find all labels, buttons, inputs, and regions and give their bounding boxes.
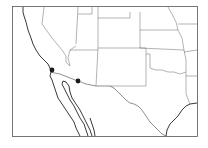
az-nm-border xyxy=(96,48,98,86)
location-marker-2[interactable] xyxy=(76,79,81,84)
baja-west-coast xyxy=(52,80,80,136)
ks-ok-border xyxy=(140,48,184,50)
ne-ia-border xyxy=(168,7,186,72)
ok-ar-border xyxy=(184,50,197,52)
az-nv-border xyxy=(68,46,76,66)
california-coastline xyxy=(23,7,52,80)
nm-tx-border xyxy=(110,48,146,86)
nv-ut-border xyxy=(76,7,78,44)
rio-grande-border xyxy=(96,86,166,136)
map-frame xyxy=(13,7,198,137)
map-svg xyxy=(0,0,208,148)
map-container xyxy=(0,0,208,148)
tx-la-border xyxy=(186,72,190,104)
texas-gulf-coast xyxy=(166,103,197,136)
baja-east-coast xyxy=(62,81,92,136)
location-marker-1[interactable] xyxy=(50,68,55,73)
utah-notch xyxy=(78,7,92,14)
ok-tx-border xyxy=(146,54,186,74)
ca-nv-border xyxy=(42,7,70,66)
us-mexico-border-west xyxy=(50,72,96,86)
wy-co-border xyxy=(98,12,130,18)
